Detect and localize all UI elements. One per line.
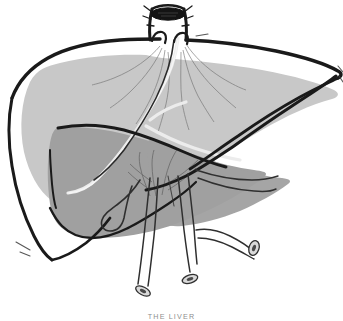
cut-end-portal-vein [181, 273, 199, 286]
liver-illustration-figure: THE LIVER [0, 0, 343, 321]
cut-end-cystic-duct [247, 239, 261, 256]
ivc-lumen [151, 8, 185, 20]
figure-caption: THE LIVER [0, 312, 343, 321]
cut-end-bile-duct [134, 284, 152, 299]
liver-anatomy-drawing [0, 0, 343, 321]
